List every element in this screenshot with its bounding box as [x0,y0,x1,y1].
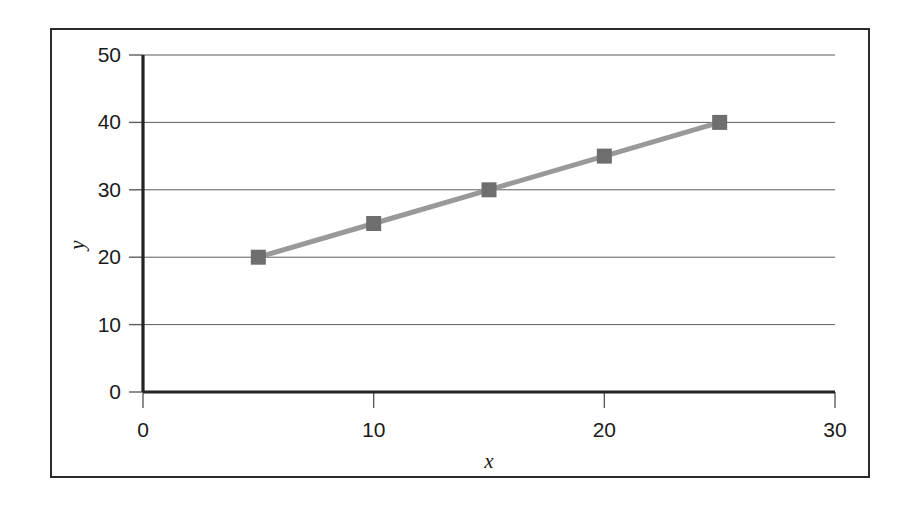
y-tick-label-10: 10 [98,313,121,336]
y-tick-label-30: 30 [98,178,121,201]
y-axis-tick-labels: 01020304050 [98,43,121,403]
data-point-4 [597,149,612,164]
figure-root: 01020304050 0102030 y x [0,0,911,505]
y-tick-label-50: 50 [98,43,121,66]
x-tick-label-10: 10 [362,418,385,441]
data-point-2 [366,216,381,231]
data-point-3 [482,182,497,197]
data-point-1 [251,250,266,265]
axes-group [143,55,835,392]
x-tick-label-0: 0 [137,418,149,441]
y-tick-label-0: 0 [109,380,121,403]
y-axis-title: y [65,240,89,252]
x-axis-title: x [483,449,494,473]
line-chart: 01020304050 0102030 y x [0,0,911,505]
x-tick-label-30: 30 [823,418,846,441]
x-tick-label-20: 20 [593,418,616,441]
x-axis-tick-labels: 0102030 [137,418,847,441]
y-tick-label-40: 40 [98,110,121,133]
data-point-5 [712,115,727,130]
y-tick-label-20: 20 [98,245,121,268]
tick-marks-group [129,55,835,408]
